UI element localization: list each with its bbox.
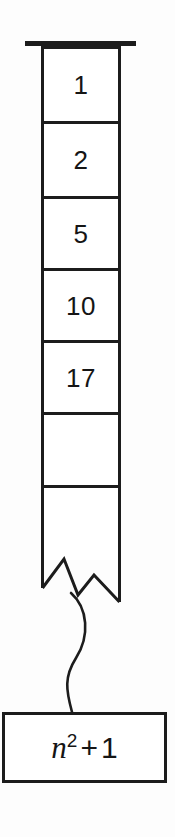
array-cell: 17	[44, 343, 118, 415]
torn-edge-and-connector	[0, 540, 175, 725]
array-cell-value: 5	[74, 221, 89, 247]
array-cell-value: 10	[66, 293, 96, 319]
array-cell-value: 17	[66, 365, 96, 391]
array-cell-empty	[44, 415, 118, 488]
wavy-connector-line	[67, 593, 85, 712]
array-cell: 2	[44, 124, 118, 199]
array-cell: 5	[44, 199, 118, 271]
jagged-break-icon	[43, 559, 120, 602]
formula-operator: +	[80, 731, 98, 764]
array-cell-value: 1	[74, 72, 89, 98]
formula-callout-box: n2+1	[2, 712, 167, 783]
formula-exponent: 2	[67, 730, 78, 751]
array-cell: 1	[44, 49, 118, 124]
array-diagram: 1 2 5 10 17 n2+1	[0, 0, 175, 837]
array-cell: 10	[44, 271, 118, 343]
formula-addend: 1	[101, 731, 118, 764]
array-cell-value: 2	[74, 147, 89, 173]
formula-variable: n	[51, 730, 67, 765]
formula-expression: n2+1	[51, 732, 117, 763]
vertical-array: 1 2 5 10 17	[41, 46, 121, 557]
